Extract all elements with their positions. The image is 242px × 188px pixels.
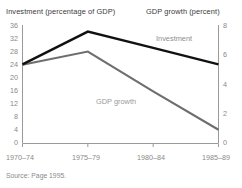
chart-figure: Investment (percentage of GDP) GDP growt… bbox=[0, 0, 242, 188]
left-axis-tick-20: 20 bbox=[0, 74, 18, 81]
right-axis-tick-6: 6 bbox=[223, 51, 227, 58]
left-axis-tick-4: 4 bbox=[0, 126, 18, 133]
left-axis-tick-16: 16 bbox=[0, 87, 18, 94]
series-label-gdp-growth: GDP growth bbox=[96, 97, 136, 106]
series-label-investment: Investment bbox=[156, 34, 192, 43]
left-axis-tick-32: 32 bbox=[0, 35, 18, 42]
left-axis-tick-24: 24 bbox=[0, 61, 18, 68]
left-axis-tick-12: 12 bbox=[0, 100, 18, 107]
right-axis-tick-2: 2 bbox=[223, 110, 227, 117]
chart-series bbox=[23, 32, 219, 130]
left-axis-tick-8: 8 bbox=[0, 113, 18, 120]
chart-axes bbox=[23, 25, 219, 147]
x-axis-tick-label-1975-79: 1975–79 bbox=[72, 154, 100, 161]
x-axis-tick-label-1980-84: 1980–84 bbox=[137, 154, 165, 161]
left-axis-tick-28: 28 bbox=[0, 48, 18, 55]
series-line-gdp-growth bbox=[23, 52, 219, 130]
right-axis-tick-8: 8 bbox=[223, 22, 227, 29]
left-axis-tick-0: 0 bbox=[0, 139, 18, 146]
left-axis-tick-36: 36 bbox=[0, 22, 18, 29]
source-note: Source: Page 1995. bbox=[6, 172, 66, 179]
x-axis-tick-label-1985-89: 1985–89 bbox=[202, 154, 230, 161]
x-axis-tick-label-1970-74: 1970–74 bbox=[6, 154, 34, 161]
right-axis-tick-0: 0 bbox=[223, 139, 227, 146]
x-axis-ticks bbox=[23, 144, 219, 148]
right-axis-tick-4: 4 bbox=[223, 81, 227, 88]
